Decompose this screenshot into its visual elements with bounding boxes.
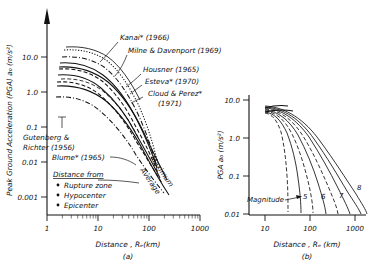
- panel-a-xtick-0: 1: [45, 224, 50, 233]
- legend-item-rupture-zone: Rupture zone: [64, 181, 113, 190]
- panel-b-ytick-1: 1.0: [229, 135, 241, 143]
- legend-item-hypocenter: Hypocenter: [64, 191, 107, 200]
- panel-b-x-axis: 10 100 1000: [249, 215, 366, 233]
- panel-b-x-axis-title: Distance , Rₑ (km): [273, 240, 340, 249]
- annotation-kanai: Kanai* (1966): [120, 33, 170, 42]
- panel-a-ytick-0: 10.0: [22, 53, 38, 62]
- panel-b-ytick-3: 0.01: [224, 211, 240, 219]
- legend-item-epicenter: Epicenter: [64, 201, 99, 210]
- arrow-icon: [296, 195, 302, 199]
- curve-extra-mid: [61, 79, 139, 139]
- panel-a: 10.0 1.0 0.1 0.01 0.001 Peak Ground Acce…: [5, 8, 222, 261]
- panel-a-ytick-1: 1.0: [27, 88, 39, 97]
- panel-b-y-axis-title: PGA a₀ (m/s²): [216, 130, 225, 179]
- panel-b-ytick-0: 10.0: [224, 97, 240, 105]
- panel-a-xtick-2: 100: [142, 224, 156, 233]
- curve-label-8: 8: [357, 184, 362, 192]
- curve-cloud-perez: [58, 75, 160, 178]
- panel-a-legend: Distance from Rupture zone Hypocenter Ep…: [53, 170, 113, 210]
- panel-a-ytick-2: 0.1: [27, 123, 38, 132]
- annotation-blume: Blume* (1965): [52, 153, 105, 162]
- panel-b-curve-labels: 5 6 7 8: [303, 184, 362, 201]
- annotation-cloud-perez-year: (1971): [158, 99, 182, 108]
- panel-a-xtick-1: 10: [93, 224, 103, 233]
- panel-a-ytick-4: 0.001: [17, 193, 38, 202]
- annotation-housner: Housner (1965): [143, 65, 199, 74]
- bullet-icon: [57, 184, 60, 187]
- panel-a-caption: (a): [123, 252, 133, 261]
- annotation-gutenberg-richter-1: Gutenberg &: [23, 133, 70, 142]
- panel-a-x-axis-title: Distance , Rₑ(km): [96, 240, 161, 249]
- bullet-icon: [57, 194, 60, 197]
- panel-b-y-axis: 10.0 1.0 0.1 0.01: [224, 95, 249, 219]
- annotation-cloud-perez: Cloud & Perez*: [148, 89, 203, 98]
- panel-b-ytick-2: 0.1: [229, 173, 240, 181]
- annotation-magnitude: Magnitude: [247, 196, 284, 204]
- panel-b: 10.0 1.0 0.1 0.01 PGA a₀ (m/s²) 10 100 1…: [216, 95, 367, 261]
- figure-root: 10.0 1.0 0.1 0.01 0.001 Peak Ground Acce…: [0, 0, 372, 271]
- legend-title: Distance from: [53, 170, 104, 179]
- panel-b-xtick-1: 100: [303, 225, 317, 233]
- y-axis-arrowhead: [44, 8, 50, 24]
- annotation-esteva: Esteva* (1970): [145, 77, 199, 86]
- panel-b-xtick-0: 10: [261, 225, 270, 233]
- panel-a-x-axis: 1 10 100 1000: [45, 215, 210, 233]
- curve-label-5: 5: [303, 193, 308, 201]
- bullet-icon: [57, 204, 60, 207]
- annotation-milne-davenport: Milne & Davenport (1969): [128, 46, 222, 55]
- panel-b-caption: (b): [302, 252, 313, 261]
- panel-a-y-axis: 10.0 1.0 0.1 0.01 0.001: [17, 8, 50, 215]
- panel-a-y-axis-title: Peak Ground Acceleration (PGA) a₀ (m/s²): [5, 44, 14, 196]
- panel-a-ytick-3: 0.01: [22, 158, 38, 167]
- annotation-gutenberg-richter-2: Richter (1956): [23, 143, 75, 152]
- panel-b-xtick-2: 1000: [346, 225, 364, 233]
- panel-a-xtick-3: 1000: [191, 224, 210, 233]
- curve-label-7: 7: [339, 192, 344, 200]
- curve-label-6: 6: [321, 193, 326, 201]
